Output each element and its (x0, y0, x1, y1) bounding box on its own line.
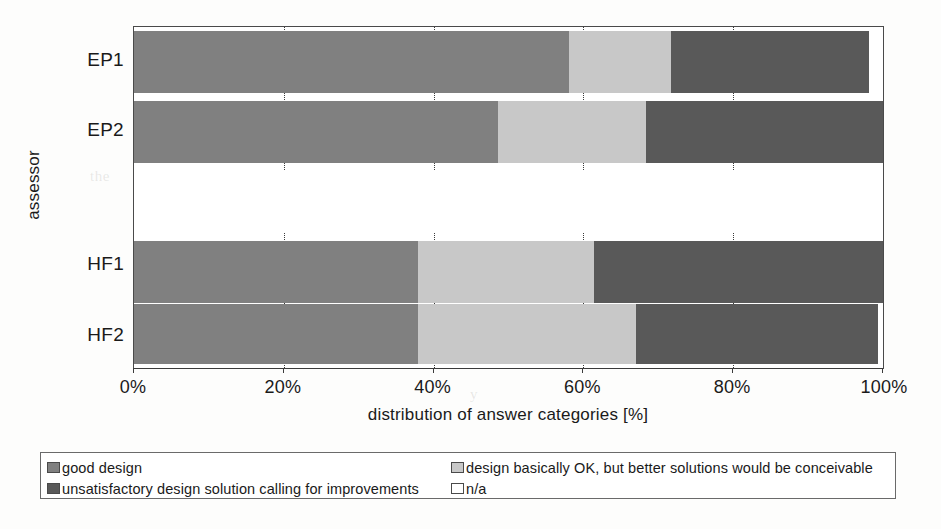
x-axis-tick-20 (283, 368, 284, 373)
bar-ep1[interactable] (134, 31, 883, 93)
x-axis-tick-label-20: 20% (243, 377, 323, 398)
x-axis-tick-label-60: 60% (542, 377, 622, 398)
background-ghost-text-1: the (90, 168, 110, 185)
x-axis-tick-40 (433, 368, 434, 373)
x-axis-tick-60 (582, 368, 583, 373)
legend-label-design-basically-ok: design basically OK, but better solution… (466, 460, 873, 476)
y-axis-tick-label-hf1: HF1 (40, 253, 124, 275)
bar-segment (134, 241, 418, 303)
bar-segment (498, 101, 646, 163)
stacked-bar-chart: the re solution y assessor EP1 EP2 HF1 H… (0, 0, 941, 529)
legend-row-2: unsatisfactory design solution calling f… (47, 478, 889, 499)
legend-label-unsatisfactory-design: unsatisfactory design solution calling f… (62, 481, 419, 497)
bar-segment (878, 304, 882, 364)
legend-label-good-design: good design (62, 460, 142, 476)
y-axis-tick-label-hf2: HF2 (40, 324, 124, 346)
x-axis-tick-label-0: 0% (93, 377, 173, 398)
bar-segment (134, 171, 883, 233)
legend-label-na: n/a (466, 481, 486, 497)
legend-swatch-icon-unsatisfactory-design (47, 483, 60, 494)
y-axis-tick-label-ep1: EP1 (40, 49, 124, 71)
x-axis-tick-80 (732, 368, 733, 373)
bar-segment (671, 31, 869, 93)
plot-area (133, 26, 884, 369)
legend-item-na[interactable]: n/a (451, 481, 486, 497)
x-axis-tick-label-80: 80% (692, 377, 772, 398)
bar-segment (134, 304, 418, 364)
x-axis-tick-label-40: 40% (393, 377, 473, 398)
bar-segment (418, 304, 636, 364)
bar-segment (636, 304, 879, 364)
legend-item-good-design[interactable]: good design (47, 460, 451, 476)
bar-segment (134, 101, 498, 163)
legend-item-unsatisfactory-design[interactable]: unsatisfactory design solution calling f… (47, 481, 451, 497)
bar-segment (646, 101, 883, 163)
legend-swatch-icon-good-design (47, 462, 60, 473)
chart-legend: good design design basically OK, but bet… (40, 452, 896, 499)
bar-segment (594, 241, 883, 303)
bar-gap (134, 171, 883, 233)
x-axis-title: distribution of answer categories [%] (133, 405, 883, 425)
y-axis-tick-label-ep2: EP2 (40, 119, 124, 141)
bar-hf2[interactable] (134, 304, 883, 364)
x-axis-tick-0 (133, 368, 134, 373)
bar-ep2[interactable] (134, 101, 883, 163)
legend-swatch-icon-design-basically-ok (451, 462, 464, 473)
legend-swatch-icon-na (451, 483, 464, 494)
bar-hf1[interactable] (134, 241, 883, 303)
bar-segment (418, 241, 594, 303)
x-axis-tick-label-100: 100% (844, 377, 924, 398)
y-axis-title: assessor (24, 125, 44, 245)
bar-segment (869, 31, 883, 93)
legend-item-design-basically-ok[interactable]: design basically OK, but better solution… (451, 460, 873, 476)
bar-segment (569, 31, 671, 93)
x-axis-tick-100 (882, 368, 883, 373)
x-axis-line (133, 368, 883, 369)
bar-segment (134, 31, 569, 93)
legend-row-1: good design design basically OK, but bet… (47, 457, 889, 478)
